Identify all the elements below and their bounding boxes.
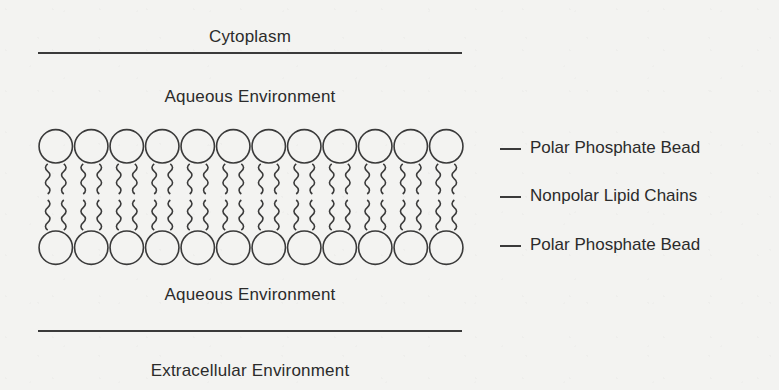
callout-label-nonpolar-tails: Nonpolar Lipid Chains [530, 187, 697, 204]
callout-label-upper-polar-head: Polar Phosphate Bead [530, 139, 700, 156]
extracellular-boundary-line [38, 330, 462, 332]
lipid-bilayer-graphic [38, 128, 464, 266]
extracellular-environment-label: Extracellular Environment [0, 362, 500, 379]
callout-dash-upper-head [500, 148, 521, 150]
callout-dash-lower-head [500, 245, 521, 247]
callout-dash-tails [500, 196, 521, 198]
callout-label-lower-polar-head: Polar Phosphate Bead [530, 236, 700, 253]
cytoplasm-label: Cytoplasm [0, 28, 500, 45]
aqueous-environment-bottom-label: Aqueous Environment [0, 286, 500, 303]
cytoplasm-boundary-line [38, 52, 462, 54]
aqueous-environment-top-label: Aqueous Environment [0, 88, 500, 105]
phospholipid-bilayer-diagram: Cytoplasm Aqueous Environment Polar Phos… [0, 0, 779, 390]
